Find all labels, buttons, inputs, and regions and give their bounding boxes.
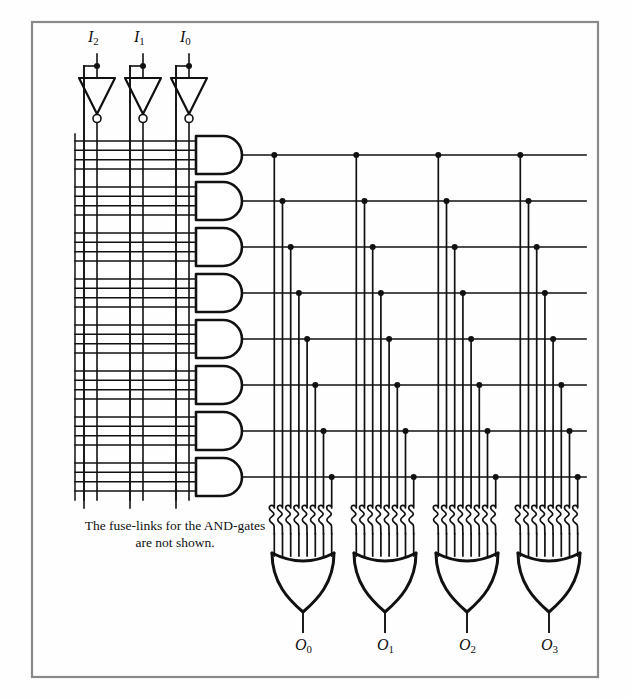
or-tap-dot-g2-r0 <box>435 152 441 158</box>
input-label-i0: I0 <box>180 28 191 47</box>
figure-border <box>32 22 598 677</box>
fuse-link-g2-4 <box>466 505 471 534</box>
or-tap-dot-g1-r1 <box>362 198 368 204</box>
or-tap-dot-g1-r7 <box>411 474 417 480</box>
fuse-link-g1-2 <box>368 505 373 534</box>
inverter-bubble-1 <box>139 115 147 123</box>
or-tap-dot-g0-r3 <box>296 290 302 296</box>
or-tap-dot-g2-r7 <box>493 474 499 480</box>
or-gate-top-arc-2 <box>436 553 498 561</box>
or-tap-dot-g0-r7 <box>329 474 335 480</box>
or-tap-dot-g2-r1 <box>444 198 450 204</box>
fuse-link-g3-1 <box>524 505 529 534</box>
fuse-link-g3-0 <box>515 505 520 534</box>
fuse-link-g1-0 <box>351 505 356 534</box>
or-tap-dot-g3-r2 <box>534 244 540 250</box>
fuse-link-g2-6 <box>483 505 488 534</box>
or-tap-dot-g1-r5 <box>394 382 400 388</box>
or-tap-dot-g3-r0 <box>517 152 523 158</box>
fuse-link-g1-4 <box>384 505 389 534</box>
or-tap-dot-g3-r6 <box>567 428 573 434</box>
diagram-canvas <box>0 0 630 699</box>
fuse-link-g0-4 <box>302 505 307 534</box>
and-gate-body-4 <box>196 320 242 358</box>
fuse-link-g3-4 <box>548 505 553 534</box>
or-tap-dot-g0-r6 <box>321 428 327 434</box>
fuse-link-g1-6 <box>401 505 406 534</box>
or-tap-dot-g1-r6 <box>403 428 409 434</box>
and-gate-body-2 <box>196 228 242 266</box>
fuse-link-g3-5 <box>556 505 561 534</box>
or-tap-dot-g1-r2 <box>370 244 376 250</box>
or-tap-dot-g3-r5 <box>558 382 564 388</box>
or-tap-dot-g0-r0 <box>271 152 277 158</box>
fuse-link-g1-5 <box>392 505 397 534</box>
and-gate-body-0 <box>196 136 242 174</box>
fuse-link-g3-2 <box>532 505 537 534</box>
or-tap-dot-g0-r5 <box>312 382 318 388</box>
output-label-o3: O3 <box>541 636 558 655</box>
fuse-link-g3-6 <box>565 505 570 534</box>
fuse-link-g3-7 <box>573 505 578 534</box>
figure-caption: The fuse-links for the AND-gates are not… <box>68 518 282 552</box>
or-tap-dot-g2-r3 <box>460 290 466 296</box>
or-tap-dot-g0-r2 <box>288 244 294 250</box>
caption-line-2: are not shown. <box>68 535 282 552</box>
fuse-link-g3-3 <box>540 505 545 534</box>
and-gate-body-7 <box>196 458 242 496</box>
output-label-o0: O0 <box>295 636 312 655</box>
fuse-link-g2-2 <box>450 505 455 534</box>
fuse-link-g0-7 <box>327 505 332 534</box>
or-tap-dot-g0-r4 <box>304 336 310 342</box>
or-tap-dot-g0-r1 <box>280 198 286 204</box>
or-tap-dot-g2-r5 <box>476 382 482 388</box>
or-tap-dot-g2-r6 <box>485 428 491 434</box>
fuse-link-g0-2 <box>286 505 291 534</box>
output-label-o1: O1 <box>377 636 394 655</box>
output-label-o2: O2 <box>459 636 476 655</box>
fuse-link-g0-5 <box>310 505 315 534</box>
inverter-bubble-2 <box>185 115 193 123</box>
fuse-link-g2-0 <box>433 505 438 534</box>
or-tap-dot-g1-r0 <box>353 152 359 158</box>
fuse-link-g0-6 <box>319 505 324 534</box>
fuse-link-g0-3 <box>294 505 299 534</box>
fuse-link-g1-3 <box>376 505 381 534</box>
or-gate-top-arc-3 <box>518 553 580 561</box>
fuse-link-g1-7 <box>409 505 414 534</box>
caption-line-1: The fuse-links for the AND-gates <box>68 518 282 535</box>
fuse-link-g2-3 <box>458 505 463 534</box>
or-tap-dot-g3-r1 <box>526 198 532 204</box>
fuse-link-g2-1 <box>442 505 447 534</box>
and-gate-body-6 <box>196 412 242 450</box>
inverter-bubble-0 <box>93 115 101 123</box>
or-gate-top-arc-0 <box>272 553 334 561</box>
fuse-link-g1-1 <box>360 505 365 534</box>
fuse-link-g2-7 <box>491 505 496 534</box>
and-gate-body-5 <box>196 366 242 404</box>
input-label-i1: I1 <box>134 28 145 47</box>
or-tap-dot-g1-r4 <box>386 336 392 342</box>
or-tap-dot-g3-r7 <box>575 474 581 480</box>
or-tap-dot-g2-r2 <box>452 244 458 250</box>
or-tap-dot-g2-r4 <box>468 336 474 342</box>
or-gate-top-arc-1 <box>354 553 416 561</box>
or-tap-dot-g3-r3 <box>542 290 548 296</box>
or-tap-dot-g1-r3 <box>378 290 384 296</box>
and-gate-body-3 <box>196 274 242 312</box>
and-gate-body-1 <box>196 182 242 220</box>
prom-logic-diagram-figure: I2 I1 I0 O0 O1 O2 O3 The fuse-links for … <box>0 0 630 699</box>
or-tap-dot-g3-r4 <box>550 336 556 342</box>
fuse-link-g2-5 <box>474 505 479 534</box>
input-label-i2: I2 <box>88 28 99 47</box>
